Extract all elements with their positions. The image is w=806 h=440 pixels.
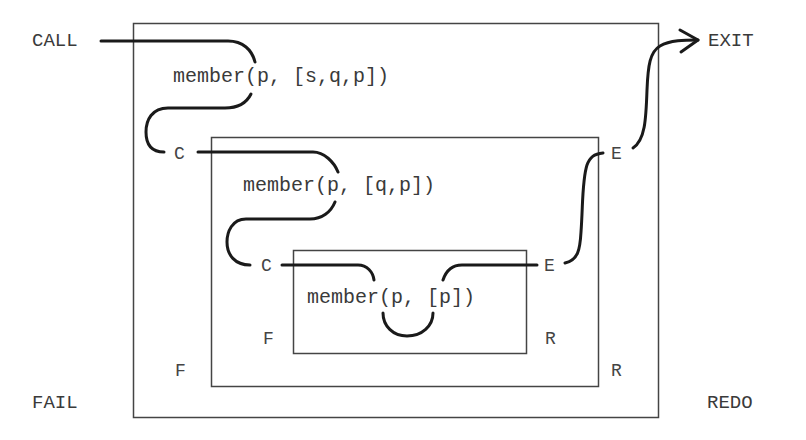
middle-redo-port: R bbox=[611, 362, 622, 380]
box-model-diagram: CALL EXIT FAIL REDO member(p, [s,q,p]) C… bbox=[0, 0, 806, 440]
redo-port-label: REDO bbox=[707, 394, 753, 413]
diagram-graphics bbox=[0, 0, 806, 440]
goal1-to-middle-call-line bbox=[146, 94, 251, 152]
goal-level-1: member(p, [s,q,p]) bbox=[173, 67, 389, 87]
inner-call-port: C bbox=[261, 257, 272, 275]
goal2-to-inner-call-line bbox=[227, 202, 335, 265]
exit-port-label: EXIT bbox=[708, 32, 754, 51]
middle-to-exit-line bbox=[633, 40, 698, 148]
fail-port-label: FAIL bbox=[32, 394, 78, 413]
inner-to-middle-exit-line bbox=[565, 153, 603, 263]
goal-level-2: member(p, [q,p]) bbox=[243, 176, 435, 196]
call-flow-line bbox=[101, 41, 255, 62]
middle-call-flow-line bbox=[198, 152, 338, 172]
inner-exit-port: E bbox=[544, 257, 555, 275]
goal-level-3: member(p, [p]) bbox=[307, 288, 475, 308]
middle-exit-port: E bbox=[611, 145, 622, 163]
middle-call-port: C bbox=[174, 145, 185, 163]
inner-exit-flow-line bbox=[443, 265, 537, 280]
middle-fail-port: F bbox=[175, 362, 186, 380]
call-port-label: CALL bbox=[32, 32, 78, 51]
inner-call-flow-line bbox=[282, 265, 374, 280]
inner-fail-port: F bbox=[263, 330, 274, 348]
unify-dip-line bbox=[383, 313, 433, 336]
inner-redo-port: R bbox=[545, 330, 556, 348]
